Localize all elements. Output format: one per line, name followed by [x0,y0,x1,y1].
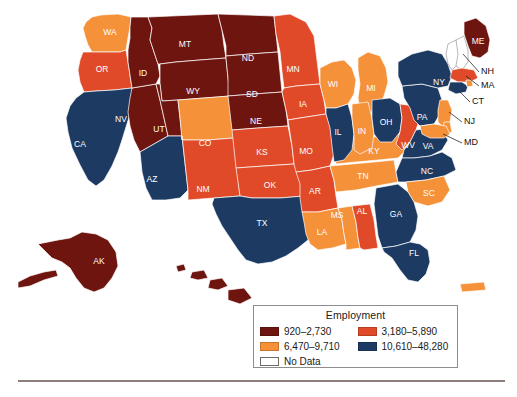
state-MN[interactable] [274,14,320,88]
callout-label-CT: CT [472,96,484,106]
state-HI-2[interactable] [190,270,208,280]
legend-label-bin4: 10,610–48,280 [382,341,449,352]
legend-item-bin2[interactable]: 3,180–5,890 [358,324,452,339]
state-RI[interactable] [466,80,473,87]
state-HI-4[interactable] [228,288,252,304]
callout-line-CT [460,92,470,102]
callout-label-NJ: NJ [464,116,475,126]
legend-item-bin4[interactable]: 10,610–48,280 [358,339,452,354]
state-NE[interactable] [228,92,288,130]
state-HI[interactable] [176,264,186,272]
legend-swatch-bin4 [358,342,377,351]
state-PR[interactable] [460,282,486,292]
legend-title: Employment [260,309,451,321]
legend-items: 920–2,730 3,180–5,890 6,470–9,710 10,610… [260,324,451,369]
state-label-HI: HI [195,284,204,294]
callout-label-MD: MD [464,137,478,147]
state-KS[interactable] [232,126,294,168]
state-AK[interactable] [38,232,118,292]
state-WA[interactable] [83,14,131,52]
employment-choropleth-figure: WA OR CA NV ID MT WY UT AZ CO NM ND SD N… [0,0,517,397]
callout-label-MA: MA [481,80,495,90]
legend-item-bin1[interactable]: 920–2,730 [260,324,354,339]
legend-label-bin2: 3,180–5,890 [382,326,438,337]
state-WY[interactable] [160,58,230,101]
state-ND[interactable] [218,14,278,56]
state-MO[interactable] [288,114,334,172]
legend-item-bin3[interactable]: 6,470–9,710 [260,339,354,354]
state-HI-3[interactable] [208,278,228,290]
legend-label-bin1: 920–2,730 [284,326,331,337]
legend-swatch-bin1 [260,327,279,336]
callout-label-NH: NH [481,66,494,76]
state-OH[interactable] [372,98,402,142]
state-OK[interactable] [236,164,304,198]
legend-item-nodata[interactable]: No Data [260,354,354,369]
legend-swatch-nodata [260,357,279,366]
bottom-divider [18,380,505,382]
state-OR[interactable] [78,50,132,92]
state-TX[interactable] [212,196,314,264]
state-LA[interactable] [302,208,346,250]
state-FL[interactable] [382,242,430,282]
state-CA[interactable] [66,88,134,186]
legend-swatch-bin3 [260,342,279,351]
state-CT[interactable] [448,82,468,94]
state-AK-aleutians[interactable] [18,270,58,288]
state-MT[interactable] [148,14,226,64]
state-NY[interactable] [398,50,452,88]
state-SD[interactable] [226,52,282,96]
state-label-PR: PR [440,271,452,281]
legend-swatch-bin2 [358,327,377,336]
state-IA[interactable] [282,84,326,120]
state-CO[interactable] [178,96,234,140]
legend-label-nodata: No Data [284,356,321,367]
state-WI[interactable] [320,60,356,108]
legend-label-bin3: 6,470–9,710 [284,341,340,352]
state-MA[interactable] [450,68,478,82]
map-legend: Employment 920–2,730 3,180–5,890 6,470–9… [253,305,458,368]
state-NM[interactable] [182,136,240,200]
